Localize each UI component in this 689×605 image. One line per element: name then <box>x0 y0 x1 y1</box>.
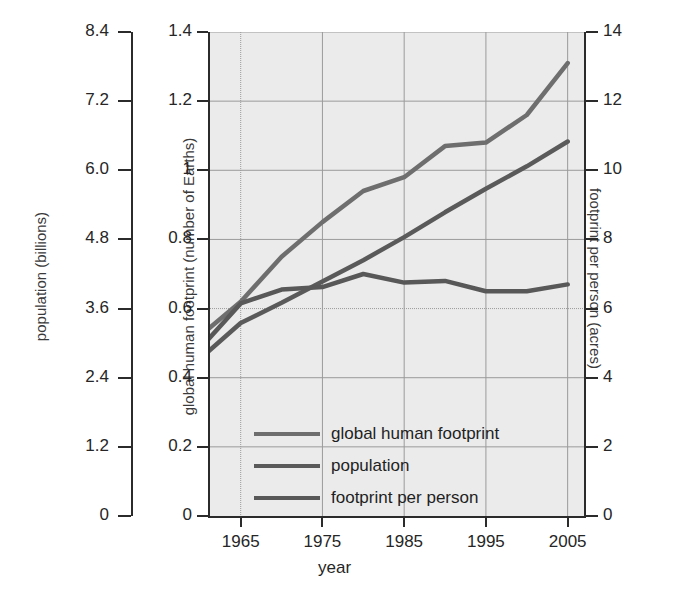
legend-label: footprint per person <box>331 488 478 508</box>
per-person-tick-label: 4 <box>603 367 649 387</box>
footprint-tick <box>197 169 208 171</box>
legend-label: global human footprint <box>331 424 499 444</box>
footprint-tick-label: 0.4 <box>146 367 192 387</box>
series-line <box>208 142 568 352</box>
legend-swatch-icon <box>254 432 320 436</box>
per-person-axis-spine <box>584 32 586 516</box>
x-tick-label: 1995 <box>451 532 521 552</box>
legend-swatch-icon <box>254 464 320 468</box>
x-tick-label: 1985 <box>369 532 439 552</box>
legend-swatch-icon <box>254 496 320 500</box>
population-tick <box>118 31 131 33</box>
per-person-tick <box>586 446 598 448</box>
x-tick <box>240 516 242 527</box>
per-person-tick <box>586 31 598 33</box>
per-person-tick-label: 8 <box>603 228 649 248</box>
footprint-tick <box>197 446 208 448</box>
footprint-tick <box>197 100 208 102</box>
legend-item[interactable]: global human footprint <box>254 424 499 444</box>
population-tick <box>118 238 131 240</box>
population-tick <box>118 377 131 379</box>
population-tick-label: 3.6 <box>49 298 109 318</box>
population-tick <box>118 446 131 448</box>
population-tick <box>118 515 131 517</box>
footprint-tick <box>197 238 208 240</box>
x-tick <box>321 516 323 527</box>
population-tick-label: 7.2 <box>49 90 109 110</box>
population-tick-label: 2.4 <box>49 367 109 387</box>
x-tick <box>403 516 405 527</box>
x-axis-spine <box>208 516 586 518</box>
population-tick-label: 4.8 <box>49 228 109 248</box>
per-person-tick-label: 10 <box>603 159 649 179</box>
population-tick-label: 0 <box>49 505 109 525</box>
population-tick-label: 8.4 <box>49 21 109 41</box>
x-tick-label: 1965 <box>206 532 276 552</box>
per-person-tick <box>586 100 598 102</box>
population-axis-title: population (billions) <box>32 127 49 427</box>
x-tick <box>485 516 487 527</box>
x-tick-label: 2005 <box>533 532 603 552</box>
per-person-tick <box>586 169 598 171</box>
population-tick-label: 1.2 <box>49 436 109 456</box>
footprint-tick-label: 0 <box>146 505 192 525</box>
x-tick-label: 1975 <box>287 532 357 552</box>
footprint-tick-label: 0.6 <box>146 298 192 318</box>
population-tick <box>118 169 131 171</box>
footprint-tick-label: 0.8 <box>146 228 192 248</box>
per-person-tick <box>586 377 598 379</box>
legend-item[interactable]: footprint per person <box>254 488 478 508</box>
per-person-tick-label: 2 <box>603 436 649 456</box>
footprint-tick-label: 1.4 <box>146 21 192 41</box>
footprint-tick-label: 1 <box>146 159 192 179</box>
footprint-axis-spine <box>208 32 210 516</box>
per-person-tick-label: 0 <box>603 505 649 525</box>
per-person-tick-label: 12 <box>603 90 649 110</box>
footprint-tick-label: 1.2 <box>146 90 192 110</box>
plot-area: global human footprintpopulationfootprin… <box>208 32 584 516</box>
population-tick-label: 6.0 <box>49 159 109 179</box>
x-tick <box>567 516 569 527</box>
per-person-axis-title: footprint per person (acres) <box>587 114 604 444</box>
footprint-axis-title: global human footprint (number of Earths… <box>180 77 197 477</box>
chart-figure: population (billions) global human footp… <box>0 0 689 605</box>
x-axis-title: year <box>318 558 351 578</box>
footprint-tick <box>197 308 208 310</box>
legend-item[interactable]: population <box>254 456 409 476</box>
footprint-tick <box>197 31 208 33</box>
per-person-tick <box>586 238 598 240</box>
per-person-tick-label: 6 <box>603 298 649 318</box>
population-tick <box>118 100 131 102</box>
per-person-tick <box>586 515 598 517</box>
population-axis-spine <box>131 32 133 516</box>
per-person-tick <box>586 308 598 310</box>
series-line <box>208 274 568 340</box>
legend-label: population <box>331 456 409 476</box>
footprint-tick-label: 0.2 <box>146 436 192 456</box>
per-person-tick-label: 14 <box>603 21 649 41</box>
footprint-tick <box>197 377 208 379</box>
population-tick <box>118 308 131 310</box>
footprint-tick <box>197 515 208 517</box>
